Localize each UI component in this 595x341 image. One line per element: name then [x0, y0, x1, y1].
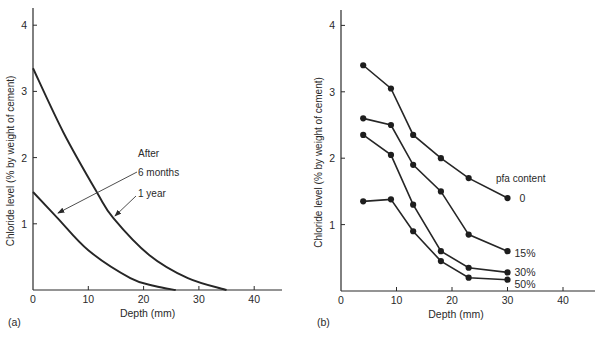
y-axis-title: Chloride level (% by weight of cement)	[313, 77, 324, 248]
data-point	[410, 202, 416, 208]
panel-label: (a)	[8, 316, 21, 328]
series-label: 0	[520, 192, 526, 204]
y-tick-label: 3	[21, 85, 27, 97]
annotation-6-months: 6 months	[138, 167, 179, 178]
x-tick-label: 30	[502, 294, 514, 306]
data-point	[410, 132, 416, 138]
series-line-15pct	[363, 118, 507, 251]
x-tick-label: 20	[138, 293, 150, 305]
y-tick-label: 4	[329, 19, 335, 31]
figure: 0102030401234Depth (mm)Chloride level (%…	[0, 0, 595, 341]
data-point	[410, 228, 416, 234]
legend-title: pfa content	[496, 173, 546, 184]
x-tick-label: 40	[557, 294, 569, 306]
y-tick-label: 4	[21, 19, 27, 31]
x-tick-label: 10	[391, 294, 403, 306]
y-axis-title: Chloride level (% by weight of cement)	[5, 76, 16, 247]
x-axis-title: Depth (mm)	[120, 307, 175, 319]
data-point	[466, 175, 472, 181]
x-tick-label: 0	[338, 294, 344, 306]
x-axis-title: Depth (mm)	[428, 308, 483, 320]
y-tick-label: 2	[21, 152, 27, 164]
series-line-50pct	[363, 199, 507, 279]
data-point	[466, 231, 472, 237]
y-tick-label: 1	[329, 219, 335, 231]
x-tick-label: 40	[248, 293, 260, 305]
panel-b-chart: 0102030401234Depth (mm)Chloride level (%…	[313, 10, 595, 328]
series-label: 30%	[515, 266, 536, 278]
curve-1-year	[33, 68, 227, 290]
data-point	[466, 275, 472, 281]
data-point	[438, 258, 444, 264]
y-tick-label: 2	[329, 152, 335, 164]
x-tick-label: 20	[446, 294, 458, 306]
data-point	[504, 277, 510, 283]
data-point	[466, 265, 472, 271]
x-tick-label: 10	[82, 293, 94, 305]
annotation-after: After	[138, 148, 160, 159]
arrow-1-year-icon	[115, 196, 136, 216]
annotation-1-year: 1 year	[138, 188, 166, 199]
data-point	[388, 122, 394, 128]
data-point	[360, 198, 366, 204]
data-point	[360, 115, 366, 121]
panel-label: (b)	[317, 316, 330, 328]
data-point	[438, 248, 444, 254]
data-point	[504, 195, 510, 201]
y-tick-label: 1	[21, 218, 27, 230]
y-tick-label: 3	[329, 86, 335, 98]
panel-a-chart: 0102030401234Depth (mm)Chloride level (%…	[5, 8, 282, 328]
data-point	[360, 62, 366, 68]
data-point	[504, 248, 510, 254]
data-point	[438, 188, 444, 194]
x-tick-label: 30	[193, 293, 205, 305]
series-label: 15%	[515, 247, 536, 259]
data-point	[388, 85, 394, 91]
x-tick-label: 0	[30, 293, 36, 305]
data-point	[438, 155, 444, 161]
data-point	[388, 152, 394, 158]
data-point	[360, 132, 366, 138]
series-line-30pct	[363, 135, 507, 272]
data-point	[388, 196, 394, 202]
data-point	[410, 162, 416, 168]
data-point	[504, 269, 510, 275]
series-line-0	[363, 65, 507, 198]
series-label: 50%	[515, 278, 536, 290]
